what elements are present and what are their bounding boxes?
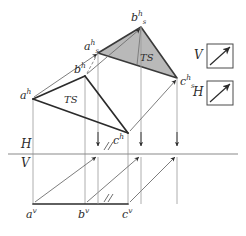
rotation-arrow-c <box>130 80 176 131</box>
base-rotation-arrow-a <box>35 157 96 202</box>
tick-mark-lower <box>104 194 113 202</box>
label-direction-box-v: V <box>194 49 203 61</box>
tick-mark-upper <box>104 142 113 150</box>
label-b-s-h: bhs <box>131 10 146 26</box>
label-c-v: cv <box>122 207 132 220</box>
label-b-h: bh <box>74 62 86 75</box>
label-a-v: av <box>26 207 37 220</box>
label-plane-v: V <box>21 157 30 169</box>
descriptive-geometry-figure: ah bh ch ahs bhs chs av bv cv TS TS H V … <box>0 0 246 236</box>
label-ts-rotated: TS <box>140 53 154 63</box>
label-a-h: ah <box>20 88 31 101</box>
label-plane-h: H <box>21 138 31 150</box>
label-ts-front: TS <box>64 95 78 105</box>
label-direction-box-h: H <box>193 86 203 98</box>
label-a-s-h: ahs <box>84 39 99 55</box>
label-c-h: ch <box>113 133 124 146</box>
shaded-true-size-triangle <box>98 27 177 78</box>
base-rotation-arrow-c <box>130 157 175 202</box>
base-rotation-arrow-b <box>87 157 139 202</box>
label-b-v: bv <box>78 207 89 220</box>
connector-ash-bh <box>86 53 98 75</box>
rotation-arrow-a <box>34 54 97 97</box>
edge-ah-ch <box>33 99 128 133</box>
figure-canvas <box>0 0 246 236</box>
